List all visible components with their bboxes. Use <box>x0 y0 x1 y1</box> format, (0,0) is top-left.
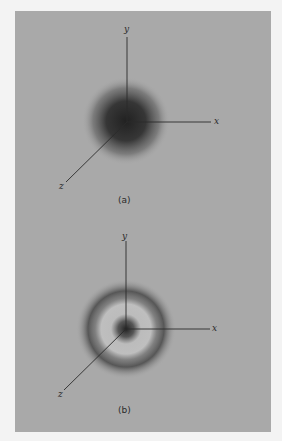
z-axis-label: z <box>59 181 64 191</box>
caption-b: (b) <box>118 405 131 415</box>
x-axis-label: x <box>212 323 217 333</box>
density-cloud <box>82 77 170 165</box>
panel-a <box>66 37 211 182</box>
y-axis-label: y <box>122 231 127 241</box>
x-axis-label: x <box>214 116 219 126</box>
panel-b <box>64 241 210 390</box>
orbital-figure <box>0 0 282 441</box>
z-axis-label: z <box>58 389 63 399</box>
caption-a: (a) <box>118 195 131 205</box>
y-axis-label: y <box>124 24 129 34</box>
